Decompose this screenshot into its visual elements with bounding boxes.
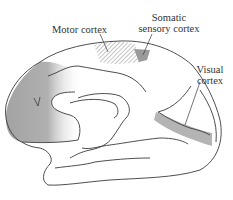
visual-cortex-label-line2: cortex	[190, 75, 230, 86]
inner-fold-2	[70, 99, 118, 118]
visual-boundary	[158, 86, 191, 112]
lower-sulcus-2	[55, 158, 150, 168]
visual-cortex-label-line1: Visual	[190, 64, 230, 75]
motor-cortex-region	[94, 42, 140, 64]
visual-cortex-band	[154, 112, 212, 146]
frontal-shaded-region	[6, 62, 82, 142]
motor-cortex-label: Motor cortex	[52, 24, 107, 35]
somatic-sensory-label-line2: sensory cortex	[136, 23, 202, 34]
somatic-sensory-label-line1: Somatic	[136, 12, 202, 23]
lower-sulcus	[82, 138, 188, 149]
visual-leader-1	[185, 82, 200, 125]
